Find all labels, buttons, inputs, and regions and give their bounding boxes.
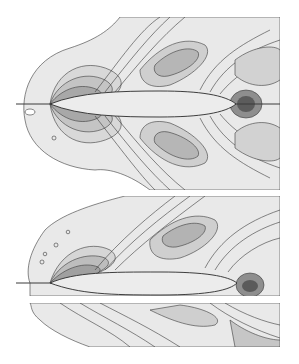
bottom-gap-band xyxy=(16,296,280,303)
top-contour-panel xyxy=(16,17,280,190)
contour-plots-svg xyxy=(0,0,299,364)
contour-figure xyxy=(0,0,299,364)
bottom-contour-panel xyxy=(16,196,280,347)
